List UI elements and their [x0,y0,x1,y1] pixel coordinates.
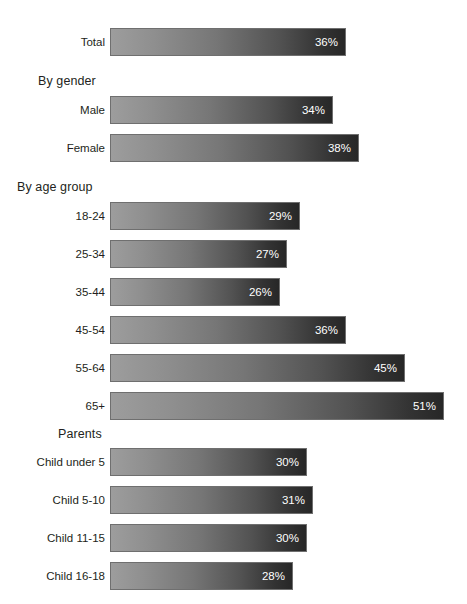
section-header: Parents [58,427,102,441]
section-header: By gender [38,74,96,88]
bar-value-label: 27% [256,241,279,267]
bar-category-label: 65+ [0,392,105,420]
bar-value-label: 30% [276,525,299,551]
bar: 29% [110,202,300,230]
bar: 38% [110,134,359,162]
bar-category-label: Total [0,28,105,56]
bar: 27% [110,240,287,268]
bar-value-label: 45% [374,355,397,381]
bar-category-label: 25-34 [0,240,105,268]
bar: 45% [110,354,405,382]
bar: 28% [110,562,293,590]
bar-category-label: 18-24 [0,202,105,230]
bar-category-label: Child under 5 [0,448,105,476]
bar-category-label: Child 5-10 [0,486,105,514]
bar-value-label: 30% [276,449,299,475]
bar-value-label: 28% [262,563,285,589]
bar-value-label: 34% [302,97,325,123]
bar: 36% [110,316,346,344]
bar-value-label: 29% [269,203,292,229]
bar: 36% [110,28,346,56]
bar-value-label: 31% [282,487,305,513]
bar-value-label: 38% [328,135,351,161]
bar-category-label: 45-54 [0,316,105,344]
bar-category-label: 55-64 [0,354,105,382]
bar-chart: Total36%By genderMale34%Female38%By age … [0,0,467,604]
bar: 51% [110,392,444,420]
bar: 26% [110,278,280,306]
chart-title-clipped [0,0,467,2]
bar-category-label: Female [0,134,105,162]
bar-value-label: 36% [315,317,338,343]
bar: 31% [110,486,313,514]
bar-value-label: 51% [413,393,436,419]
bar-category-label: 35-44 [0,278,105,306]
bar-value-label: 36% [315,29,338,55]
bar-category-label: Child 11-15 [0,524,105,552]
bar-value-label: 26% [249,279,272,305]
bar-category-label: Male [0,96,105,124]
bar: 30% [110,448,307,476]
bar: 30% [110,524,307,552]
bar-category-label: Child 16-18 [0,562,105,590]
bar: 34% [110,96,333,124]
section-header: By age group [17,180,93,194]
